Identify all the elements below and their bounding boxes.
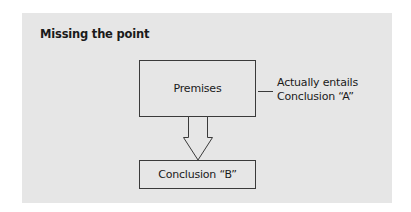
annotation-line-1: Actually entails [277, 76, 358, 90]
conclusion-b-node: Conclusion “B” [139, 160, 256, 189]
premises-node: Premises [139, 60, 256, 117]
annotation-line-2: Conclusion “A” [277, 90, 358, 104]
diagram-title: Missing the point [40, 27, 149, 41]
premises-label: Premises [174, 82, 222, 95]
conclusion-b-label: Conclusion “B” [158, 168, 237, 181]
annotation-connector-line [258, 91, 273, 92]
down-arrow-icon [180, 116, 216, 162]
entails-annotation: Actually entails Conclusion “A” [277, 76, 358, 104]
